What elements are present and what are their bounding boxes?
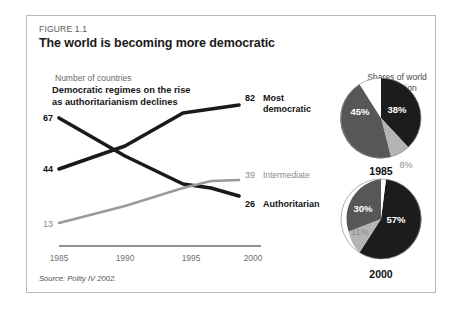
x-tick-label-1995: 1995: [182, 253, 201, 263]
series-line-authoritarian: [59, 118, 239, 196]
pie-2000-label-authoritarian: 30%: [353, 203, 373, 214]
pie-2000-year-label: 2000: [369, 268, 393, 280]
pie-1985-label-authoritarian: 45%: [350, 106, 370, 117]
series-line-most-democratic: [59, 105, 239, 169]
line-chart: 67 44 13 82 39 26 Most democratic Interm…: [43, 93, 320, 263]
figure-source: Source: Polity IV 2002.: [39, 274, 116, 283]
pie-1985-label-most-democratic: 38%: [387, 104, 407, 115]
series-label-intermediate: Intermediate: [263, 170, 310, 180]
pie-2000-label-most-democratic: 57%: [386, 214, 406, 225]
value-label-authoritarian-start: 67: [43, 113, 53, 123]
pie-1985-year-label: 1985: [369, 165, 393, 177]
value-label-intermediate-end: 39: [245, 170, 255, 180]
pie-2000-label-intermediate: 11%: [351, 227, 368, 237]
pie-1985-label-intermediate: 8%: [399, 160, 412, 170]
value-label-authoritarian-end: 26: [245, 199, 255, 209]
series-label-most-democratic-line2: democratic: [263, 104, 311, 114]
pie-chart-1985: 38% 45% 8% 1985: [340, 78, 421, 177]
pie-chart-2000: 57% 30% 11% 2000: [341, 179, 421, 280]
value-label-intermediate-start: 13: [43, 219, 53, 229]
x-tick-label-2000: 2000: [244, 253, 263, 263]
x-tick-label-1985: 1985: [50, 253, 69, 263]
series-label-most-democratic-line1: Most: [263, 93, 284, 103]
x-tick-label-1990: 1990: [116, 253, 135, 263]
series-label-authoritarian: Authoritarian: [263, 199, 320, 209]
figure-frame: FIGURE 1.1 The world is becoming more de…: [26, 15, 436, 293]
value-label-democratic-start: 44: [43, 164, 53, 174]
figure-graphics: 67 44 13 82 39 26 Most democratic Interm…: [27, 16, 437, 294]
value-label-democratic-end: 82: [245, 93, 255, 103]
